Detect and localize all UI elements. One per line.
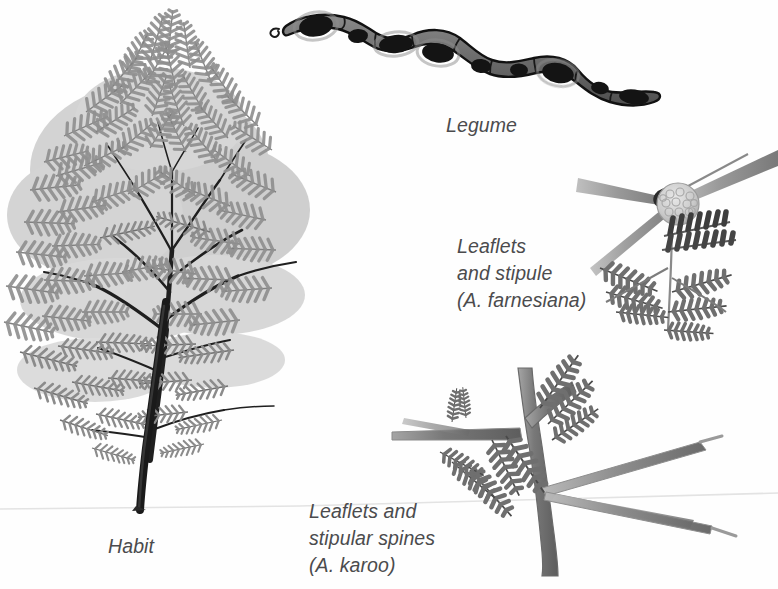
label-legume-text: Legume: [446, 112, 517, 139]
label-habit: Habit: [108, 533, 154, 560]
figure-karoo-detail: [392, 349, 736, 576]
label-legume: Legume: [446, 112, 517, 139]
figure-habit: [1, 9, 310, 511]
botanical-plate: Legume Habit Leaflets and stipule (A. fa…: [0, 0, 778, 589]
label-farnesiana-line1: Leaflets: [457, 233, 586, 260]
label-leaflets-and-stipular-spines-karoo: Leaflets and stipular spines (A. karoo): [309, 498, 435, 579]
figure-legume: [270, 9, 660, 107]
label-farnesiana-line3: (A. farnesiana): [457, 287, 586, 314]
farnesiana-leaflets-upper: [662, 212, 736, 250]
label-karoo-line1: Leaflets and: [309, 498, 435, 525]
label-karoo-line3: (A. karoo): [309, 552, 435, 579]
karoo-stipular-spines: [542, 436, 736, 536]
figure-farnesiana-detail: [576, 150, 778, 341]
label-leaflets-and-stipule-farnesiana: Leaflets and stipule (A. farnesiana): [457, 233, 586, 314]
label-habit-text: Habit: [108, 533, 154, 560]
label-farnesiana-line2: and stipule: [457, 260, 586, 287]
label-karoo-line2: stipular spines: [309, 525, 435, 552]
